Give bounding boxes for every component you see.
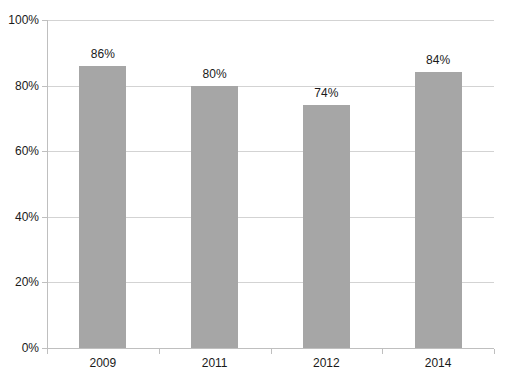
y-axis-tick-label: 80% xyxy=(0,80,39,92)
x-axis-tick-label-2012: 2012 xyxy=(286,357,366,369)
gridline-100pct xyxy=(47,20,494,21)
y-tick-mark xyxy=(42,86,47,87)
y-axis-tick-label: 60% xyxy=(0,145,39,157)
y-tick-mark xyxy=(42,217,47,218)
x-tick-mark xyxy=(382,349,383,354)
x-tick-mark xyxy=(159,349,160,354)
y-axis-tick-label: 40% xyxy=(0,211,39,223)
y-axis-tick-label: 20% xyxy=(0,276,39,288)
x-tick-mark xyxy=(271,349,272,354)
bar-2014[interactable] xyxy=(415,72,462,348)
y-tick-mark xyxy=(42,20,47,21)
bar-value-label-2014: 84% xyxy=(398,54,478,66)
x-axis-tick-label-2011: 2011 xyxy=(175,357,255,369)
y-tick-mark xyxy=(42,282,47,283)
bar-value-label-2011: 80% xyxy=(175,68,255,80)
y-axis-line xyxy=(47,20,48,349)
y-axis-tick-label: 0% xyxy=(0,342,39,354)
bar-2009[interactable] xyxy=(79,66,126,348)
bar-chart: 0%20%40%60%80%100% 2009201120122014 86%8… xyxy=(0,0,509,383)
x-tick-mark xyxy=(47,349,48,354)
y-tick-mark xyxy=(42,151,47,152)
x-tick-mark xyxy=(494,349,495,354)
bar-2012[interactable] xyxy=(303,105,350,348)
bar-value-label-2012: 74% xyxy=(286,87,366,99)
x-axis-tick-label-2009: 2009 xyxy=(63,357,143,369)
plot-area xyxy=(47,20,494,348)
y-axis-tick-label: 100% xyxy=(0,14,39,26)
bar-2011[interactable] xyxy=(191,86,238,348)
bar-value-label-2009: 86% xyxy=(63,48,143,60)
x-axis-tick-label-2014: 2014 xyxy=(398,357,478,369)
